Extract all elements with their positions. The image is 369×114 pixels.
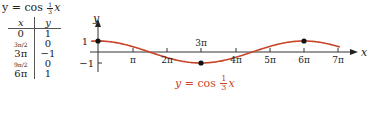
point-3pi-neg1: [198, 60, 203, 65]
x-tick-label-3pi: 3π: [195, 38, 207, 48]
curve-label-fraction: 13: [220, 75, 227, 92]
curve-label: y = cos 13x: [175, 75, 235, 92]
x-tick-label-pi: π: [130, 55, 136, 65]
y-axis-label: y: [92, 12, 100, 25]
frac-denominator: 3: [220, 84, 227, 92]
x-tick-label-7pi: 7π: [332, 55, 344, 65]
point-0-1: [95, 38, 100, 43]
x-tick-label-4pi: 4π: [230, 55, 242, 65]
x-ticks: [133, 48, 338, 52]
x-tick-label-6pi: 6π: [298, 55, 310, 65]
x-axis-label: x: [361, 46, 368, 59]
curve-label-suffix: x: [228, 77, 234, 90]
y-tick-label-1: 1: [82, 36, 88, 47]
y-tick-label-neg1: −1: [79, 58, 94, 69]
point-6pi-1: [301, 38, 306, 43]
x-tick-label-2pi: 2π: [161, 55, 173, 65]
x-axis-arrow-icon: [350, 49, 358, 55]
x-tick-label-5pi: 5π: [264, 55, 276, 65]
graph: y x 1 −1 π 2π 3π 4π 5π 6π 7π: [0, 0, 369, 114]
